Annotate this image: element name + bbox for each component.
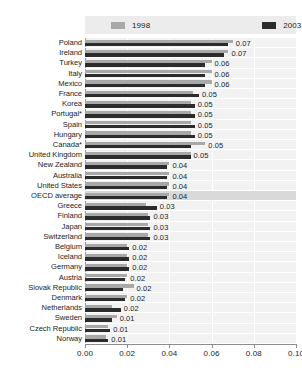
- bar-row: 0.02: [85, 283, 296, 293]
- bar-2003: [85, 135, 195, 138]
- bar-2003: [85, 308, 121, 311]
- axis-tick: [254, 344, 255, 348]
- bar-chart: 1998 2003 PolandIrelandTurkeyItalyMexico…: [0, 0, 302, 371]
- axis-tick-label: 0.02: [119, 349, 135, 358]
- category-label: Spain: [0, 120, 82, 130]
- bar-row: 0.01: [85, 334, 296, 344]
- bar-row: 0.03: [85, 222, 296, 232]
- bar-2003: [85, 318, 112, 321]
- bar-row: 0.04: [85, 191, 296, 201]
- bar-row: 0.06: [85, 79, 296, 89]
- bar-row: 0.03: [85, 232, 296, 242]
- axis-tick: [127, 344, 128, 348]
- axis-tick: [296, 344, 297, 348]
- category-label: Korea: [0, 99, 82, 109]
- category-label: United Kingdom: [0, 150, 82, 160]
- bar-2003: [85, 63, 205, 66]
- category-label: Italy: [0, 69, 82, 79]
- bar-2003: [85, 125, 195, 128]
- value-axis-line: [85, 344, 296, 345]
- category-label: Slovak Republic: [0, 283, 82, 293]
- category-label: Turkey: [0, 58, 82, 68]
- bar-2003: [85, 329, 110, 332]
- bar-row: 0.04: [85, 171, 296, 181]
- plot-area: 0.070.070.060.060.060.050.050.050.050.05…: [85, 38, 296, 344]
- bar-row: 0.04: [85, 160, 296, 170]
- category-label: United States: [0, 181, 82, 191]
- category-label: Denmark: [0, 293, 82, 303]
- category-axis-labels: PolandIrelandTurkeyItalyMexicoFranceKore…: [0, 38, 82, 344]
- bar-2003: [85, 298, 125, 301]
- value-axis: [85, 344, 296, 348]
- category-label: Portugal*: [0, 109, 82, 119]
- bar-2003: [85, 145, 191, 148]
- category-label: Netherlands: [0, 303, 82, 313]
- bar-2003: [85, 288, 123, 291]
- bar-2003: [85, 176, 167, 179]
- bar-2003: [85, 237, 150, 240]
- legend-label-1998: 1998: [132, 21, 150, 30]
- bar-row: 0.02: [85, 303, 296, 313]
- category-label: France: [0, 89, 82, 99]
- category-label: Hungary: [0, 130, 82, 140]
- bar-row: 0.06: [85, 69, 296, 79]
- axis-tick: [169, 344, 170, 348]
- bar-row: 0.05: [85, 130, 296, 140]
- category-label: Switzerland: [0, 232, 82, 242]
- bar-row: 0.07: [85, 38, 296, 48]
- category-label: Poland: [0, 38, 82, 48]
- legend-swatch-1998: [111, 22, 125, 29]
- bar-row: 0.07: [85, 48, 296, 58]
- bar-2003: [85, 104, 195, 107]
- legend-label-2003: 2003: [283, 21, 301, 30]
- bar-row: 0.02: [85, 262, 296, 272]
- bar-2003: [85, 227, 150, 230]
- axis-tick-label: 0.10: [288, 349, 302, 358]
- bar-2003: [85, 43, 228, 46]
- category-label: Czech Republic: [0, 324, 82, 334]
- bar-row: 0.01: [85, 313, 296, 323]
- category-label: Canada*: [0, 140, 82, 150]
- bar-2003: [85, 186, 167, 189]
- bar-rows: 0.070.070.060.060.060.050.050.050.050.05…: [85, 38, 296, 344]
- bar-2003: [85, 74, 205, 77]
- bar-row: 0.03: [85, 211, 296, 221]
- bar-row: 0.05: [85, 99, 296, 109]
- bar-row: 0.05: [85, 120, 296, 130]
- bar-2003: [85, 267, 129, 270]
- bar-row: 0.04: [85, 181, 296, 191]
- bar-2003: [85, 155, 191, 158]
- axis-tick-label: 0.00: [77, 349, 93, 358]
- category-label: Finland: [0, 211, 82, 221]
- bar-2003: [85, 196, 167, 199]
- bar-row: 0.05: [85, 140, 296, 150]
- bar-row: 0.02: [85, 273, 296, 283]
- category-label: Mexico: [0, 79, 82, 89]
- bar-row: 0.05: [85, 89, 296, 99]
- bar-row: 0.03: [85, 201, 296, 211]
- bar-2003: [85, 278, 125, 281]
- axis-tick-label: 0.08: [246, 349, 262, 358]
- bar-2003: [85, 339, 108, 342]
- bar-row: 0.02: [85, 293, 296, 303]
- bar-row: 0.02: [85, 252, 296, 262]
- bar-2003: [85, 84, 205, 87]
- category-label: Iceland: [0, 252, 82, 262]
- category-label: Norway: [0, 334, 82, 344]
- bar-row: 0.05: [85, 109, 296, 119]
- bar-row: 0.06: [85, 58, 296, 68]
- axis-tick: [212, 344, 213, 348]
- bar-row: 0.05: [85, 150, 296, 160]
- bar-2003: [85, 114, 195, 117]
- bar-2003: [85, 165, 167, 168]
- bar-2003: [85, 94, 199, 97]
- bar-2003: [85, 53, 224, 56]
- category-label: Ireland: [0, 48, 82, 58]
- category-label: Australia: [0, 171, 82, 181]
- axis-tick: [85, 344, 86, 348]
- gridline: [296, 38, 297, 344]
- bar-2003: [85, 206, 157, 209]
- legend-entry-2003: 2003: [262, 21, 301, 30]
- legend-entry-1998: 1998: [111, 21, 150, 30]
- category-label: Austria: [0, 273, 82, 283]
